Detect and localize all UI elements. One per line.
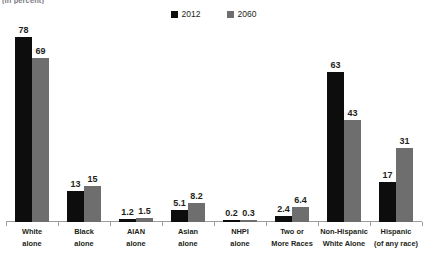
category-label-line: Hispanic [370, 226, 422, 238]
category-label-line: Asian [162, 226, 214, 238]
bar-value-label: 8.2 [190, 192, 203, 201]
category-label: Whitealone [6, 226, 58, 249]
bar-2012[interactable]: 0.2 [223, 26, 240, 222]
category-label: NHPIalone [214, 226, 266, 249]
bar-value-label: 69 [35, 47, 45, 56]
bar-2060[interactable]: 8.2 [188, 26, 205, 222]
bar-rect[interactable] [292, 207, 309, 222]
bar-chart: (in percent) 2012 2060 786913151.21.55.1… [0, 0, 427, 255]
bar-rect[interactable] [188, 203, 205, 222]
bar-rect[interactable] [171, 210, 188, 222]
legend-item-2060[interactable]: 2060 [227, 10, 257, 19]
bar-value-label: 17 [382, 171, 392, 180]
bar-rect[interactable] [223, 220, 240, 222]
bar-rect[interactable] [327, 72, 344, 222]
legend-item-2012[interactable]: 2012 [171, 10, 201, 19]
category-label: Two orMore Races [266, 226, 318, 249]
bar-rect[interactable] [344, 120, 361, 222]
category-label-line: White [6, 226, 58, 238]
bar-2012[interactable]: 2.4 [275, 26, 292, 222]
bar-value-label: 2.4 [277, 205, 290, 214]
bar-value-label: 0.3 [242, 209, 255, 218]
bar-rect[interactable] [32, 58, 49, 222]
bar-2060[interactable]: 6.4 [292, 26, 309, 222]
bar-group-bars: 5.18.2 [162, 26, 214, 222]
category-label: Asianalone [162, 226, 214, 249]
bar-group-bars: 1315 [58, 26, 110, 222]
bar-2060[interactable]: 15 [84, 26, 101, 222]
bar-2012[interactable]: 78 [15, 26, 32, 222]
category-label: AIANalone [110, 226, 162, 249]
category-label-line: alone [58, 238, 110, 250]
bar-value-label: 31 [399, 137, 409, 146]
bar-value-label: 15 [87, 175, 97, 184]
bar-rect[interactable] [275, 216, 292, 222]
category-label-line: AIAN [110, 226, 162, 238]
bar-value-label: 1.2 [121, 208, 134, 217]
bar-value-label: 43 [347, 109, 357, 118]
category-label-line: More Races [266, 238, 318, 250]
legend-label-2012: 2012 [182, 10, 201, 19]
legend-label-2060: 2060 [238, 10, 257, 19]
category-label-line: alone [214, 238, 266, 250]
category-label-line: alone [162, 238, 214, 250]
bar-group-bars: 1731 [370, 26, 422, 222]
bar-group: 1315 [58, 26, 110, 222]
bar-2060[interactable]: 31 [396, 26, 413, 222]
category-label: Blackalone [58, 226, 110, 249]
bar-2060[interactable]: 1.5 [136, 26, 153, 222]
category-label-line: alone [110, 238, 162, 250]
bar-group-bars: 7869 [6, 26, 58, 222]
bar-value-label: 63 [330, 61, 340, 70]
bar-2060[interactable]: 0.3 [240, 26, 257, 222]
bar-rect[interactable] [136, 218, 153, 222]
bar-group: 0.20.3 [214, 26, 266, 222]
bar-value-label: 78 [18, 26, 28, 35]
legend-swatch-2060 [227, 11, 234, 18]
legend-swatch-2012 [171, 11, 178, 18]
bar-rect[interactable] [84, 186, 101, 222]
bar-2012[interactable]: 13 [67, 26, 84, 222]
bar-value-label: 1.5 [138, 207, 151, 216]
bar-rect[interactable] [119, 219, 136, 222]
category-label-line: alone [6, 238, 58, 250]
bar-2060[interactable]: 43 [344, 26, 361, 222]
category-label: Hispanic(of any race) [370, 226, 422, 249]
category-label-line: White Alone [318, 238, 370, 250]
bar-value-label: 0.2 [225, 209, 238, 218]
bar-rect[interactable] [379, 182, 396, 222]
bar-rect[interactable] [15, 37, 32, 222]
bar-2012[interactable]: 63 [327, 26, 344, 222]
bar-value-label: 5.1 [173, 199, 186, 208]
category-label-line: Black [58, 226, 110, 238]
plot-area: 786913151.21.55.18.20.20.32.46.463431731 [0, 26, 427, 222]
bar-2012[interactable]: 1.2 [119, 26, 136, 222]
category-axis-labels: WhitealoneBlackaloneAIANaloneAsianaloneN… [0, 226, 427, 255]
bar-2060[interactable]: 69 [32, 26, 49, 222]
bar-group: 1731 [370, 26, 422, 222]
bar-value-label: 6.4 [294, 196, 307, 205]
bar-group-bars: 1.21.5 [110, 26, 162, 222]
bar-2012[interactable]: 5.1 [171, 26, 188, 222]
category-label-line: NHPI [214, 226, 266, 238]
bar-group: 2.46.4 [266, 26, 318, 222]
chart-legend: 2012 2060 [0, 10, 427, 19]
category-label-line: Non-Hispanic [318, 226, 370, 238]
bar-group: 5.18.2 [162, 26, 214, 222]
bar-group: 1.21.5 [110, 26, 162, 222]
chart-title-fragment: (in percent) [2, 0, 44, 4]
bar-value-label: 13 [70, 180, 80, 189]
bar-group-bars: 0.20.3 [214, 26, 266, 222]
category-label: Non-HispanicWhite Alone [318, 226, 370, 249]
bar-2012[interactable]: 17 [379, 26, 396, 222]
bar-group: 7869 [6, 26, 58, 222]
bar-rect[interactable] [396, 148, 413, 222]
bar-rect[interactable] [240, 220, 257, 222]
category-label-line: Two or [266, 226, 318, 238]
bar-group: 6343 [318, 26, 370, 222]
category-label-line: (of any race) [370, 238, 422, 250]
bar-group-bars: 6343 [318, 26, 370, 222]
bar-rect[interactable] [67, 191, 84, 222]
bar-group-bars: 2.46.4 [266, 26, 318, 222]
